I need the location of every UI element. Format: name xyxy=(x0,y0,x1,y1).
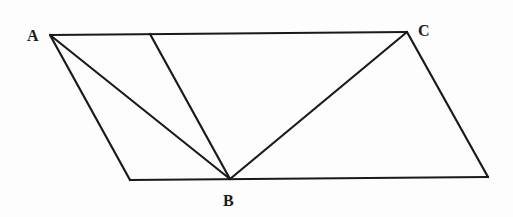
label-c: C xyxy=(418,22,430,39)
diagonal-AB xyxy=(50,35,230,179)
label-a: A xyxy=(27,27,39,44)
left-edge-AD xyxy=(50,35,130,180)
bottom-edge-DE xyxy=(130,177,488,180)
diagonal-CB xyxy=(230,32,407,179)
right-edge-CE xyxy=(407,32,488,177)
segment-PB xyxy=(150,34,230,179)
label-b: B xyxy=(223,192,234,209)
top-edge-AC xyxy=(50,32,407,35)
segments-group xyxy=(50,32,488,180)
parallelogram-diagram: A C B xyxy=(0,0,513,217)
